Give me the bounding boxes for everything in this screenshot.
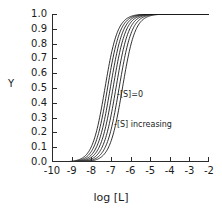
y-axis-tick [53,73,57,74]
x-axis-tick [72,157,73,161]
y-axis-tick-label: 0.7 [18,53,47,63]
x-axis-tick [189,157,190,161]
annotation-s-increasing: -[S] increasing [114,120,172,129]
y-axis-tick-label: 0.6 [18,68,47,78]
x-axis-tick [170,157,171,161]
y-axis-tick [53,44,57,45]
y-axis-tick [53,88,57,89]
x-axis-tick-label-group: -10-9-8-7-6-5-4-3-2 [52,165,212,178]
y-axis-tick [53,118,57,119]
x-axis-tick [131,157,132,161]
annotation-s-equals-zero: -[S]=0 [117,90,143,99]
x-axis-tick [91,157,92,161]
x-axis-line [52,161,209,162]
y-axis-tick-label: 0.1 [18,142,47,152]
curve-line [52,14,209,162]
dose-response-curves [52,14,209,162]
x-axis-tick [52,157,53,161]
y-axis-tick-label: 0.4 [18,98,47,108]
y-axis-tick [53,14,57,15]
y-axis-tick-label: 0.2 [18,127,47,137]
x-axis-tick [150,157,151,161]
y-axis-tick-label: 0.5 [18,83,47,93]
y-axis-tick [53,147,57,148]
plot-area [52,14,209,162]
y-axis-tick [53,161,57,162]
y-axis-tick-label: 0.8 [18,39,47,49]
y-axis-tick [53,29,57,30]
sigmoid-dose-response-chart: Y 0.00.10.20.30.40.50.60.70.80.91.0 -10-… [0,0,222,221]
y-axis-tick-label: 0.9 [18,24,47,34]
x-axis-tick-label: -2 [197,165,221,176]
y-axis-tick [53,132,57,133]
x-axis-tick [208,157,209,161]
y-axis-tick [53,58,57,59]
y-axis-tick-label: 0.3 [18,113,47,123]
y-axis-tick-label-group: 0.00.10.20.30.40.50.60.70.80.91.0 [18,9,47,165]
y-axis-tick [53,103,57,104]
y-axis-title: Y [4,79,18,89]
x-axis-title: log [L] [0,192,222,204]
y-axis-tick-label: 1.0 [18,9,47,19]
x-axis-tick [111,157,112,161]
